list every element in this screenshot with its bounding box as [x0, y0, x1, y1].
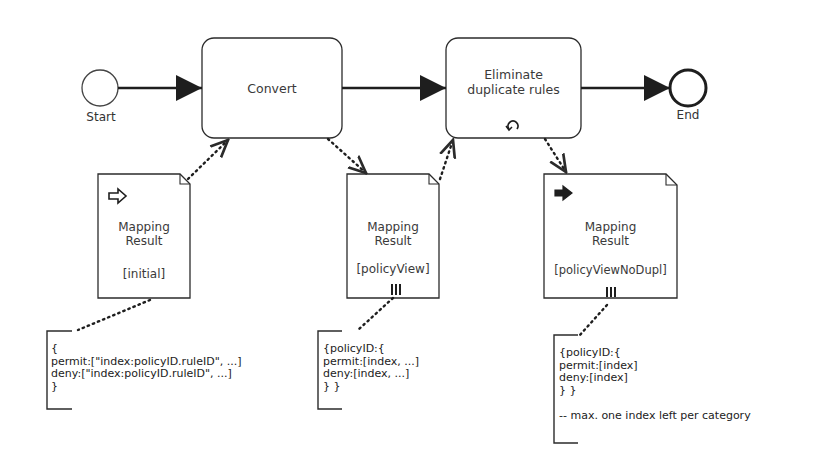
collection-marker-icon: [606, 287, 616, 297]
data-object-policyviewnodupl-state: [policyViewNoDupl]: [544, 263, 677, 277]
text-annotation-initial: { permit:["index:policyID.ruleID", ...] …: [51, 343, 241, 393]
text-annotation-policyview: {policyID:{ permit:[index, ...] deny:[in…: [323, 343, 419, 393]
data-association-policyview-eliminate: [440, 140, 453, 179]
data-association-eliminate-policyviewnodupl: [545, 139, 566, 172]
data-object-initial-label: Mapping Result: [98, 220, 190, 248]
data-object-initial-state: [initial]: [98, 267, 190, 281]
collection-marker-icon: [391, 284, 401, 295]
annotation-link-policyviewnodupl: [579, 305, 607, 336]
annotation-link-initial: [78, 300, 150, 330]
annotation-link-policyview: [358, 298, 393, 330]
start-event: [82, 70, 118, 106]
task-eliminate-label: Eliminate duplicate rules: [446, 38, 581, 126]
data-association-initial-convert: [188, 140, 228, 179]
data-object-policyview-label: Mapping Result: [347, 220, 439, 248]
end-event-label: End: [671, 108, 705, 122]
end-event: [670, 70, 706, 106]
task-convert-label: Convert: [202, 38, 342, 138]
text-annotation-policyviewnodupl: {policyID:{ permit:[index] deny:[index] …: [559, 347, 751, 422]
data-object-policyviewnodupl-label: Mapping Result: [544, 220, 677, 248]
start-event-label: Start: [84, 110, 118, 124]
data-association-convert-policyview: [328, 139, 366, 173]
data-object-policyview-state: [policyView]: [347, 262, 439, 276]
